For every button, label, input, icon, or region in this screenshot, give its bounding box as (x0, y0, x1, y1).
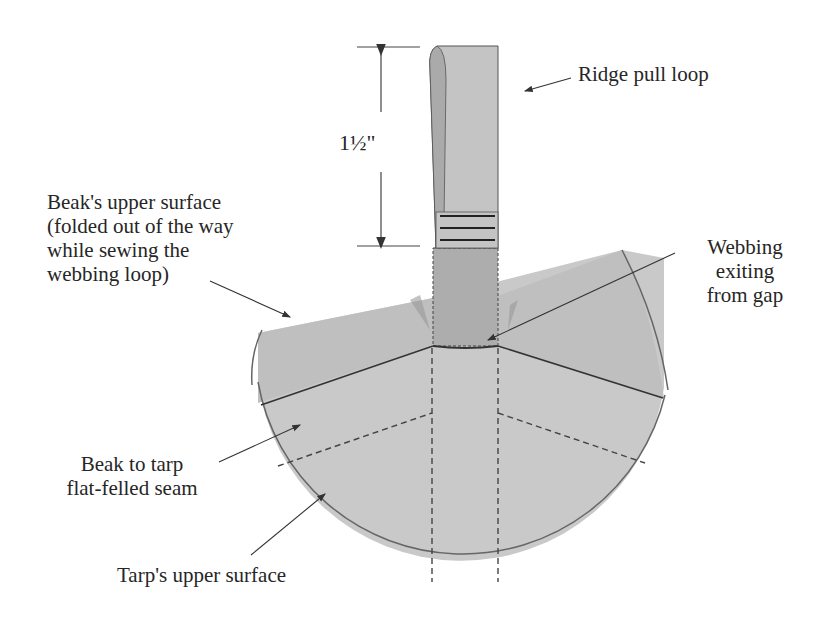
label-tarp-upper-surface: Tarp's upper surface (117, 564, 286, 587)
leader-beak-upper-surface (210, 281, 290, 317)
leader-ridge-pull-loop (525, 78, 571, 91)
label-webbing-exiting: Webbing exiting from gap (690, 235, 800, 307)
webbing-strip (433, 248, 498, 348)
diagram-canvas (0, 0, 839, 633)
label-ridge-pull-loop: Ridge pull loop (578, 63, 709, 86)
label-beak-upper-surface: Beak's upper surface (folded out of the … (47, 190, 234, 286)
dimension-label: 1½" (339, 131, 375, 154)
label-beak-to-tarp-seam: Beak to tarp flat-felled seam (42, 452, 222, 500)
leader-tarp-upper-surface (251, 494, 325, 555)
ridge-pull-loop (430, 46, 498, 248)
